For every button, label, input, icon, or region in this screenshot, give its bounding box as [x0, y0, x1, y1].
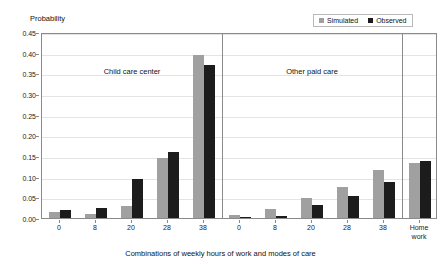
legend-swatch-simulated: [319, 18, 324, 23]
x-tick-label-20: 20: [127, 224, 135, 233]
bar-observed-other-paid-care-0: [240, 217, 251, 218]
y-tick-mark: [36, 33, 39, 34]
x-axis-ticks: 0820283808202838Homework: [41, 220, 437, 246]
x-tick-mark: [59, 220, 60, 223]
x-tick-label-8: 8: [93, 224, 97, 233]
gridline: [42, 34, 436, 35]
x-tick-label-0: 0: [237, 224, 241, 233]
y-tick-label: 0.00: [22, 216, 36, 223]
plot-area: Child care centerOther paid care: [41, 33, 437, 219]
y-tick-mark: [36, 136, 39, 137]
y-tick-mark: [36, 54, 39, 55]
x-tick-label-38: 38: [379, 224, 387, 233]
y-tick-label: 0.15: [22, 154, 36, 161]
bar-observed-child-care-center-0: [60, 210, 71, 218]
bar-simulated-other-paid-care-0: [229, 215, 240, 218]
bar-simulated-other-paid-care-38: [373, 170, 384, 218]
bar-observed-other-paid-care-8: [276, 216, 287, 218]
bar-observed-home-work-home-work: [420, 161, 431, 218]
legend-entry-observed[interactable]: Observed: [368, 17, 406, 24]
x-tick-mark: [167, 220, 168, 223]
bar-simulated-child-care-center-38: [193, 55, 204, 218]
y-tick-mark: [36, 198, 39, 199]
x-tick-label-8: 8: [273, 224, 277, 233]
y-tick-label: 0.45: [22, 30, 36, 37]
y-tick-mark: [36, 219, 39, 220]
y-tick-mark: [36, 74, 39, 75]
x-tick-mark: [131, 220, 132, 223]
legend-label-observed: Observed: [376, 17, 406, 24]
x-tick-label-home-work: Homework: [410, 224, 429, 241]
bar-observed-other-paid-care-28: [348, 196, 359, 218]
y-tick-label: 0.40: [22, 50, 36, 57]
bar-simulated-other-paid-care-28: [337, 187, 348, 218]
panel-divider-2: [402, 34, 403, 218]
y-tick-mark: [36, 178, 39, 179]
y-tick-label: 0.35: [22, 71, 36, 78]
bar-observed-child-care-center-38: [204, 65, 215, 218]
gridline: [42, 55, 436, 56]
y-tick-label: 0.25: [22, 112, 36, 119]
bar-simulated-child-care-center-28: [157, 158, 168, 218]
bar-observed-child-care-center-28: [168, 152, 179, 218]
gridline: [42, 117, 436, 118]
bar-observed-child-care-center-20: [132, 179, 143, 218]
gridline: [42, 158, 436, 159]
bar-simulated-other-paid-care-20: [301, 198, 312, 218]
y-tick-mark: [36, 116, 39, 117]
bar-chart: Probability SimulatedObserved 0.450.400.…: [0, 0, 441, 267]
bar-simulated-child-care-center-20: [121, 206, 132, 218]
x-tick-mark: [203, 220, 204, 223]
x-tick-label-20: 20: [307, 224, 315, 233]
bar-simulated-other-paid-care-8: [265, 209, 276, 219]
panel-title-child-care-center: Child care center: [104, 67, 161, 76]
bar-observed-other-paid-care-20: [312, 205, 323, 218]
y-axis-ticks: 0.450.400.350.300.250.200.150.100.050.00: [0, 33, 39, 219]
y-tick-label: 0.05: [22, 195, 36, 202]
bar-observed-child-care-center-8: [96, 208, 107, 218]
gridline: [42, 75, 436, 76]
x-tick-mark: [239, 220, 240, 223]
bar-simulated-child-care-center-8: [85, 214, 96, 218]
panel-title-other-paid-care: Other paid care: [286, 67, 338, 76]
gridline: [42, 137, 436, 138]
legend-swatch-observed: [368, 18, 373, 23]
bar-simulated-child-care-center-0: [49, 212, 60, 218]
chart-legend: SimulatedObserved: [313, 14, 413, 27]
bar-observed-other-paid-care-38: [384, 182, 395, 218]
x-tick-label-0: 0: [57, 224, 61, 233]
panel-divider-1: [222, 34, 223, 218]
x-tick-mark: [275, 220, 276, 223]
legend-label-simulated: Simulated: [327, 17, 358, 24]
bar-simulated-home-work-home-work: [409, 163, 420, 218]
x-tick-mark: [95, 220, 96, 223]
x-tick-label-28: 28: [163, 224, 171, 233]
y-axis-title: Probability: [30, 14, 65, 23]
x-tick-mark: [347, 220, 348, 223]
y-tick-label: 0.10: [22, 174, 36, 181]
legend-entry-simulated[interactable]: Simulated: [319, 17, 358, 24]
x-axis-title: Combinations of weekly hours of work and…: [0, 249, 441, 258]
x-tick-label-38: 38: [199, 224, 207, 233]
x-tick-mark: [311, 220, 312, 223]
x-tick-label-28: 28: [343, 224, 351, 233]
y-tick-label: 0.20: [22, 133, 36, 140]
y-tick-mark: [36, 157, 39, 158]
y-tick-mark: [36, 95, 39, 96]
x-tick-mark: [383, 220, 384, 223]
x-tick-mark: [419, 220, 420, 223]
y-tick-label: 0.30: [22, 92, 36, 99]
gridline: [42, 96, 436, 97]
